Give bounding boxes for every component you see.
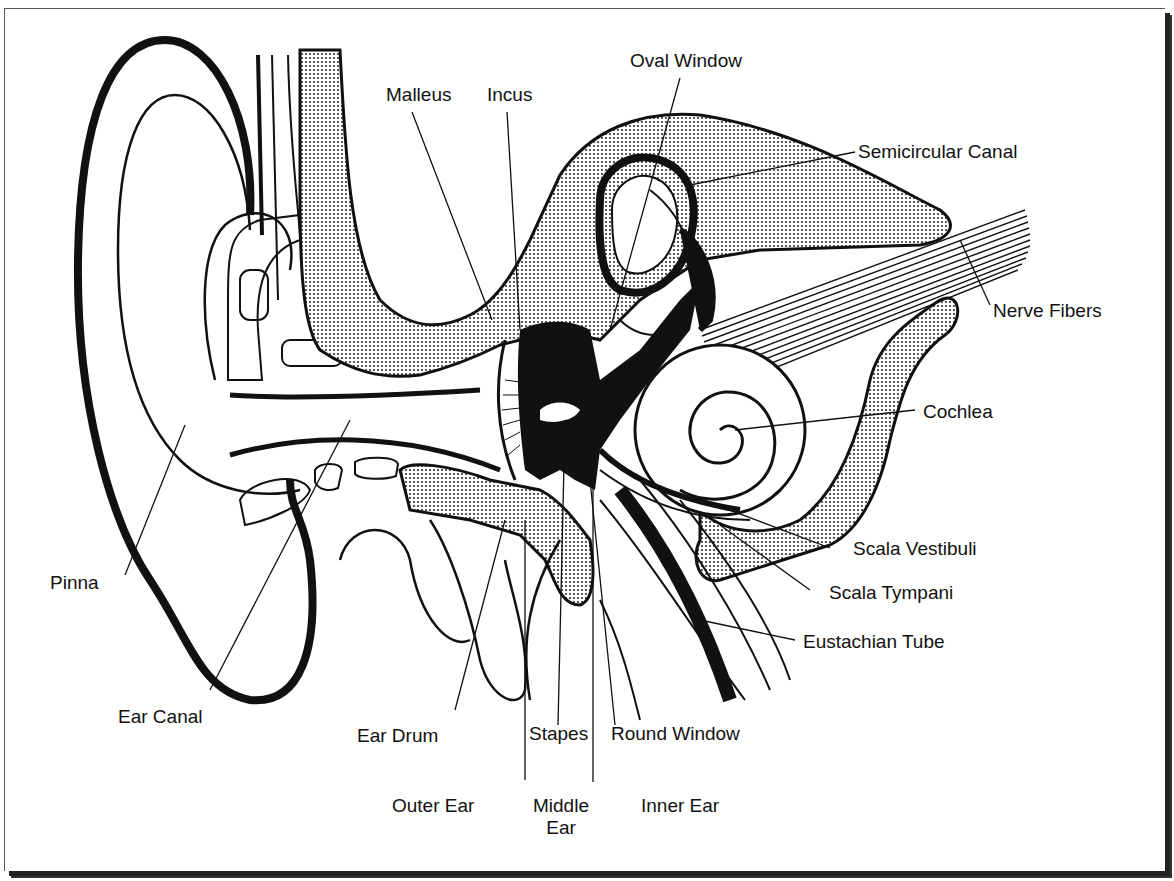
label-round-window: Round Window — [611, 723, 740, 745]
label-ear-drum: Ear Drum — [357, 725, 438, 747]
label-cochlea: Cochlea — [923, 401, 993, 423]
ear-anatomy-illustration — [0, 0, 1174, 881]
label-scala-vestibuli: Scala Vestibuli — [853, 538, 977, 560]
region-middle-ear: Middle Ear — [524, 795, 598, 839]
label-pinna: Pinna — [50, 572, 99, 594]
label-oval-window: Oval Window — [630, 50, 742, 72]
region-inner-ear: Inner Ear — [641, 795, 719, 817]
label-stapes: Stapes — [529, 723, 588, 745]
label-malleus: Malleus — [386, 84, 451, 106]
region-middle-ear-line1: Middle — [524, 795, 598, 817]
label-eustachian-tube: Eustachian Tube — [803, 631, 945, 653]
region-middle-ear-line2: Ear — [524, 817, 598, 839]
region-outer-ear: Outer Ear — [392, 795, 474, 817]
label-semicircular-canal: Semicircular Canal — [858, 141, 1017, 163]
ear-drum — [498, 340, 515, 480]
label-scala-tympani: Scala Tympani — [829, 582, 953, 604]
label-nerve-fibers: Nerve Fibers — [993, 300, 1102, 322]
label-ear-canal: Ear Canal — [118, 706, 203, 728]
pinna-outline — [78, 40, 313, 700]
label-incus: Incus — [487, 84, 532, 106]
